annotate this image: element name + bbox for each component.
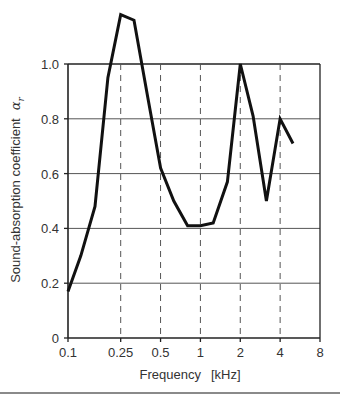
absorption-chart: 00.20.40.60.81.0 0.10.250.51248 <box>0 0 340 399</box>
y-tick-label: 0.4 <box>41 221 59 236</box>
x-axis-unit: [kHz] <box>211 367 241 382</box>
y-tick-label: 0.8 <box>41 112 59 127</box>
x-tick-label: 0.5 <box>152 345 170 360</box>
x-tick-label: 0.1 <box>59 345 77 360</box>
x-tick-labels: 0.10.250.51248 <box>59 345 324 360</box>
x-tick-label: 0.25 <box>108 345 133 360</box>
data-line <box>68 15 293 292</box>
x-tick-label: 1 <box>197 345 204 360</box>
x-axis-label: Frequency[kHz] <box>0 367 340 382</box>
alpha-symbol: αr <box>8 97 23 110</box>
y-tick-label: 0 <box>52 331 59 346</box>
x-tick-label: 8 <box>316 345 323 360</box>
y-axis-label-container: Sound-absorption coefficientαr <box>2 70 32 310</box>
bottom-rule <box>0 392 340 394</box>
y-tick-label: 0.6 <box>41 167 59 182</box>
x-tick-label: 2 <box>237 345 244 360</box>
vertical-dashed-gridlines <box>121 64 280 338</box>
y-axis-label: Sound-absorption coefficientαr <box>8 97 26 283</box>
x-axis-label-text: Frequency <box>139 367 200 382</box>
axes <box>64 64 320 342</box>
y-tick-label: 1.0 <box>41 57 59 72</box>
y-axis-label-text: Sound-absorption coefficient <box>8 118 23 283</box>
y-tick-labels: 00.20.40.60.81.0 <box>41 57 59 346</box>
y-tick-label: 0.2 <box>41 276 59 291</box>
x-tick-label: 4 <box>277 345 284 360</box>
